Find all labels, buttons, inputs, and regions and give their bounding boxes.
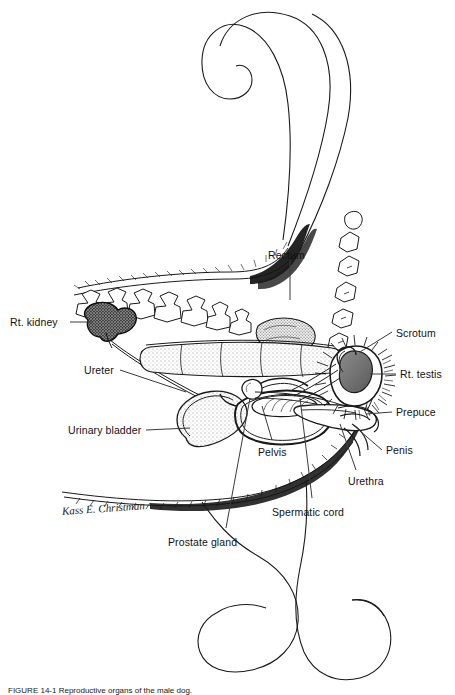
- label-pelvis: Pelvis: [258, 446, 287, 458]
- label-urinary-bladder: Urinary bladder: [68, 424, 141, 436]
- tail: [202, 12, 351, 252]
- kidney: [85, 302, 137, 348]
- label-scrotum: Scrotum: [396, 327, 436, 339]
- label-rt-testis: Rt. testis: [400, 368, 442, 380]
- label-urethra: Urethra: [348, 475, 384, 487]
- label-prostate-gland: Prostate gland: [168, 536, 237, 548]
- label-rectum: Rectum: [268, 249, 305, 261]
- anatomy-illustration: [0, 0, 455, 695]
- figure-caption: FIGURE 14-1 Reproductive organs of the m…: [8, 686, 192, 695]
- label-ureter: Ureter: [84, 364, 114, 376]
- label-rt-kidney: Rt. kidney: [10, 316, 58, 328]
- anatomical-figure: Rt. kidney Ureter Urinary bladder Prosta…: [0, 0, 455, 695]
- caudal-vertebrae: [328, 211, 362, 351]
- label-prepuce: Prepuce: [396, 406, 436, 418]
- leader-scrotum: [360, 332, 392, 352]
- rectum: [140, 340, 344, 377]
- urinary-bladder: [177, 391, 247, 446]
- label-spermatic-cord: Spermatic cord: [272, 506, 344, 518]
- label-penis: Penis: [386, 444, 413, 456]
- prostate: [242, 379, 262, 399]
